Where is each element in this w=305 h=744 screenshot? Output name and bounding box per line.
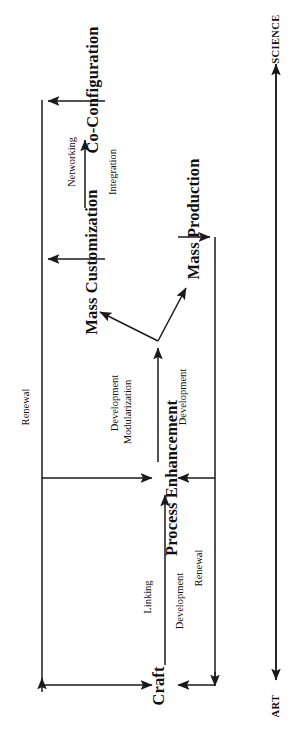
edge-label-development-craft: Development: [175, 573, 186, 630]
branch-to-masscustomization: [100, 312, 158, 341]
edge-label-renewal-right: Renewal: [194, 550, 205, 587]
axis-label-science: SCIENCE: [271, 14, 282, 63]
edge-label-integration: Integration: [108, 149, 119, 195]
node-mass-customization[interactable]: Mass Customization: [84, 189, 101, 334]
node-craft[interactable]: Craft: [151, 667, 168, 706]
node-mass-production[interactable]: Mass Production: [186, 159, 203, 280]
diagram-connectors: [0, 0, 305, 744]
edge-label-development-massproduction: Development: [178, 369, 189, 426]
edge-label-networking: Networking: [67, 137, 78, 187]
edge-label-modularization: Modularization: [123, 380, 134, 445]
node-co-configuration[interactable]: Co-Configuration: [85, 26, 102, 153]
edge-label-renewal-left: Renewal: [21, 389, 32, 426]
axis-label-art: ART: [271, 695, 282, 718]
edge-label-development-modularization: Development: [110, 375, 121, 432]
branch-to-massproduction: [158, 288, 186, 341]
edge-label-linking: Linking: [143, 580, 154, 613]
diagram-canvas: Craft Process Enhancement Mass Customiza…: [0, 0, 305, 744]
